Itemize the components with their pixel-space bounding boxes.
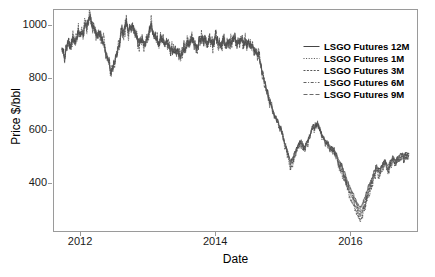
legend-item[interactable]: LSGO Futures 6M bbox=[303, 77, 415, 88]
y-tick-mark bbox=[48, 183, 52, 184]
y-tick-label: 600 bbox=[29, 124, 47, 135]
legend-line-sample-icon bbox=[303, 77, 320, 88]
legend-item[interactable]: LSGO Futures 9M bbox=[303, 89, 415, 100]
x-tick-label: 2012 bbox=[58, 236, 102, 247]
chart-figure: 1000800600400 Price $/bbl LSGO Futures 1… bbox=[0, 0, 435, 277]
x-tick-mark bbox=[215, 232, 216, 236]
legend-label: LSGO Futures 3M bbox=[324, 65, 404, 76]
x-tick-label: 2014 bbox=[193, 236, 237, 247]
x-axis-label: Date bbox=[53, 253, 418, 266]
x-tick-mark bbox=[350, 232, 351, 236]
legend-item[interactable]: LSGO Futures 12M bbox=[303, 41, 415, 52]
legend-item[interactable]: LSGO Futures 3M bbox=[303, 65, 415, 76]
legend-label: LSGO Futures 12M bbox=[324, 41, 410, 52]
y-tick-label: 800 bbox=[29, 72, 47, 83]
y-tick-mark bbox=[48, 78, 52, 79]
y-tick-mark bbox=[48, 130, 52, 131]
y-tick-mark bbox=[48, 25, 52, 26]
legend-line-sample-icon bbox=[303, 41, 320, 52]
y-axis-tick-labels: 1000800600400 bbox=[0, 0, 47, 277]
legend: LSGO Futures 12MLSGO Futures 1MLSGO Futu… bbox=[303, 41, 415, 101]
legend-label: LSGO Futures 1M bbox=[324, 53, 404, 64]
y-axis-label: Price $/bbl bbox=[10, 57, 23, 177]
y-tick-label: 1000 bbox=[23, 19, 47, 30]
x-tick-mark bbox=[80, 232, 81, 236]
legend-line-sample-icon bbox=[303, 65, 320, 76]
legend-item[interactable]: LSGO Futures 1M bbox=[303, 53, 415, 64]
legend-label: LSGO Futures 6M bbox=[324, 77, 404, 88]
x-tick-label: 2016 bbox=[328, 236, 372, 247]
legend-line-sample-icon bbox=[303, 53, 320, 64]
y-tick-label: 400 bbox=[29, 177, 47, 188]
legend-label: LSGO Futures 9M bbox=[324, 89, 404, 100]
legend-line-sample-icon bbox=[303, 89, 320, 100]
